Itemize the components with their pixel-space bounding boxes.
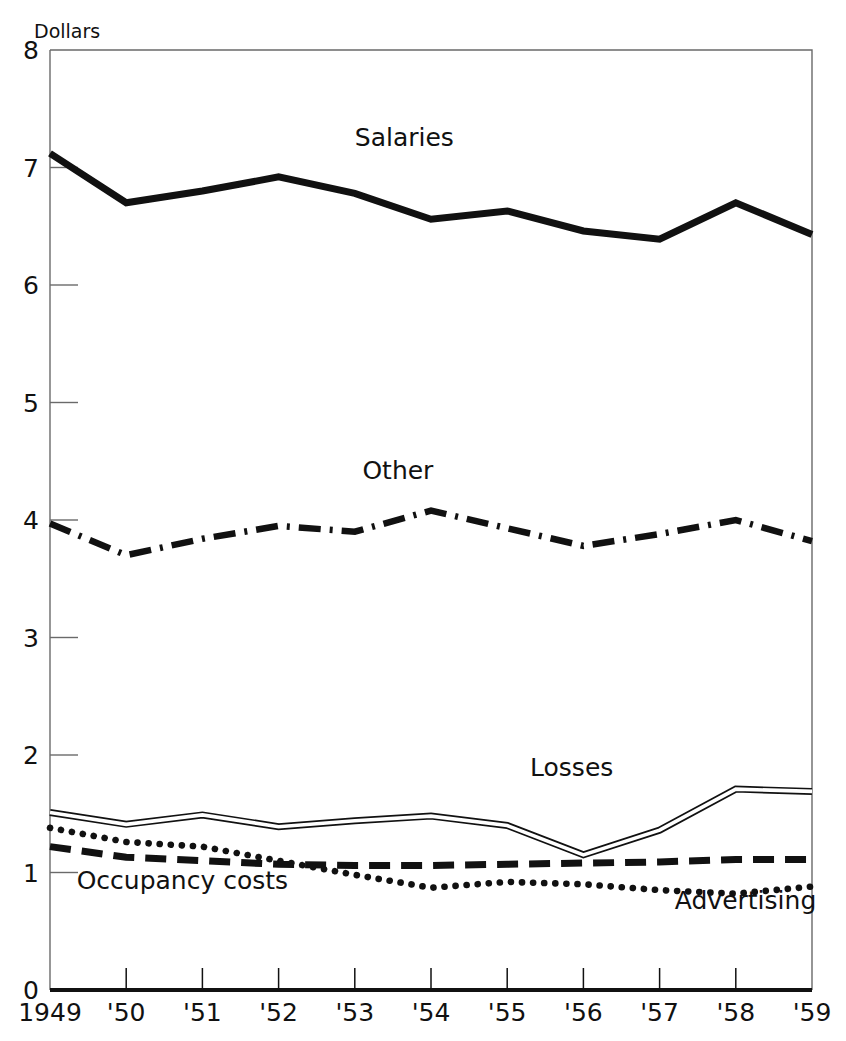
y-tick-label: 4	[23, 506, 39, 535]
x-tick-label: '55	[488, 998, 527, 1027]
chart-container: Dollars 012345678 1949'50'51'52'53'54'55…	[0, 0, 846, 1041]
y-tick-label: 6	[23, 271, 39, 300]
x-tick-label: '52	[259, 998, 298, 1027]
plot-frame	[50, 50, 812, 990]
y-tick-label: 5	[23, 389, 39, 418]
x-tick-label: 1949	[18, 998, 82, 1027]
x-tick-label: '56	[564, 998, 603, 1027]
y-tick-label: 8	[23, 36, 39, 65]
series-line-salaries	[50, 153, 812, 239]
series-line-occupancy-costs	[50, 847, 812, 866]
x-tick-label: '51	[183, 998, 222, 1027]
y-tick-label: 2	[23, 741, 39, 770]
series-line-other	[50, 511, 812, 556]
x-tick-label: '59	[793, 998, 832, 1027]
x-tick-label: '54	[412, 998, 451, 1027]
y-tick-label: 3	[23, 624, 39, 653]
y-tick-label: 1	[23, 859, 39, 888]
series-label-advertising: Advertising	[675, 886, 816, 915]
series-label-losses: Losses	[530, 753, 613, 782]
series-label-occupancy-costs: Occupancy costs	[77, 866, 288, 895]
line-chart: Dollars 012345678 1949'50'51'52'53'54'55…	[0, 0, 846, 1041]
y-axis-title: Dollars	[34, 20, 100, 42]
x-tick-label: '50	[107, 998, 146, 1027]
y-tick-label: 7	[23, 154, 39, 183]
series-line-losses	[50, 789, 812, 855]
x-tick-label: '57	[640, 998, 679, 1027]
x-tick-label: '58	[716, 998, 755, 1027]
series-label-salaries: Salaries	[355, 123, 454, 152]
x-tick-label: '53	[335, 998, 374, 1027]
series-label-other: Other	[362, 456, 434, 485]
